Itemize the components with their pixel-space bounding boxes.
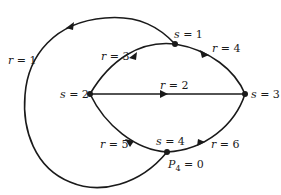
arrow-r6-icon bbox=[197, 139, 205, 146]
label-r5: r = 5 bbox=[100, 138, 128, 151]
state-transition-diagram: s = 1 s = 2 s = 3 s = 4 r = 1 r = 2 r = … bbox=[0, 0, 281, 195]
node-s4 bbox=[164, 149, 170, 155]
label-r3: r = 3 bbox=[101, 50, 129, 63]
label-s3: s = 3 bbox=[251, 88, 280, 101]
label-p4: P4 = 0 bbox=[167, 158, 204, 173]
label-s1: s = 1 bbox=[174, 28, 203, 41]
label-r4: r = 4 bbox=[212, 42, 240, 55]
label-r2: r = 2 bbox=[160, 79, 188, 92]
node-s3 bbox=[242, 91, 248, 97]
label-s4: s = 4 bbox=[156, 135, 185, 148]
label-r1: r = 1 bbox=[8, 54, 36, 67]
label-s2: s = 2 bbox=[60, 88, 89, 101]
label-r6: r = 6 bbox=[211, 138, 239, 151]
edge-r1 bbox=[25, 18, 175, 188]
node-s1 bbox=[172, 41, 178, 47]
